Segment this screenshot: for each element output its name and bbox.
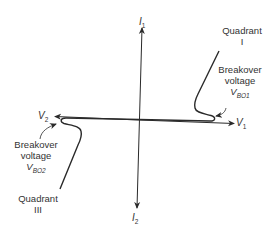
x-negative-label: V2: [38, 110, 48, 123]
breakover-2-pointer: [40, 124, 56, 139]
characteristic-curve-q1: [139, 51, 219, 121]
quadrant-1-label: Quadrant I: [214, 25, 270, 47]
breakover-2-label: Breakover voltage VBO2: [6, 139, 66, 176]
current-axis: [140, 28, 143, 118]
breakover-1-pointer: [216, 108, 226, 116]
quadrant-3-label: Quadrant III: [10, 193, 66, 215]
breakover-1-label: Breakover voltage VBO1: [210, 64, 270, 101]
x-positive-label: V1: [236, 117, 246, 130]
y-positive-label: I1: [139, 16, 145, 29]
y-negative-label: I2: [132, 212, 138, 225]
current-axis-negative: [137, 118, 140, 208]
characteristic-curve-q3: [60, 118, 139, 189]
